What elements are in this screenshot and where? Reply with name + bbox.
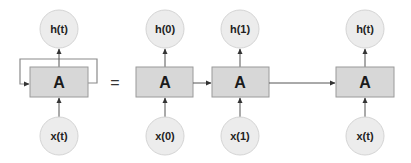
rolled-rnn: h(t) A x(t) xyxy=(20,10,97,155)
rnn-cell-step-0: A xyxy=(136,67,193,97)
unrolled-step-0: h(0) A x(0) xyxy=(136,10,193,155)
cell-label: A xyxy=(53,74,65,91)
output-node-step-0: h(0) xyxy=(146,10,184,48)
cell-label: A xyxy=(159,74,171,91)
rnn-cell-step-1: A xyxy=(212,67,269,97)
input-node-step-t: x(t) xyxy=(346,117,384,155)
output-label: h(0) xyxy=(155,23,176,35)
input-label: x(t) xyxy=(50,130,67,142)
input-label: x(1) xyxy=(230,130,250,142)
output-node-rolled: h(t) xyxy=(40,10,78,48)
output-label: h(t) xyxy=(356,23,374,35)
rnn-diagram: h(t) A x(t) = h(0) A x(0) xyxy=(0,0,411,163)
output-label: h(t) xyxy=(50,23,68,35)
output-label: h(1) xyxy=(230,23,251,35)
input-label: x(t) xyxy=(356,130,373,142)
input-node-step-0: x(0) xyxy=(146,117,184,155)
cell-label: A xyxy=(359,74,371,91)
cell-label: A xyxy=(234,74,246,91)
input-node-rolled: x(t) xyxy=(40,117,78,155)
unrolled-step-t: h(t) A x(t) xyxy=(336,10,394,155)
output-node-step-t: h(t) xyxy=(346,10,384,48)
input-node-step-1: x(1) xyxy=(221,117,259,155)
equals-sign: = xyxy=(110,74,119,91)
unrolled-step-1: h(1) A x(1) xyxy=(212,10,269,155)
input-label: x(0) xyxy=(155,130,175,142)
output-node-step-1: h(1) xyxy=(221,10,259,48)
rnn-cell-step-t: A xyxy=(336,67,394,97)
rnn-cell-rolled: A xyxy=(30,67,88,97)
